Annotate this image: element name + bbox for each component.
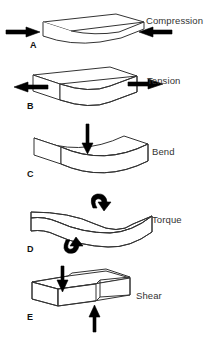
compression-diagram <box>0 0 208 60</box>
shear-bar-shape <box>32 269 130 306</box>
shear-diagram <box>0 262 208 338</box>
panel-compression: Compression A <box>0 0 208 60</box>
compression-arrow-left <box>6 27 40 37</box>
panel-torque: Torque D <box>0 188 208 260</box>
tension-bar-shape <box>33 67 137 106</box>
panel-letter-e: E <box>27 312 33 322</box>
label-compression: Compression <box>146 15 203 26</box>
compression-bar-shape <box>43 14 144 43</box>
torque-arrow-top <box>91 194 111 211</box>
panel-letter-c: C <box>27 169 34 179</box>
panel-shear: Shear E <box>0 262 208 338</box>
label-tension: Tension <box>147 75 180 86</box>
bend-bar-shape <box>34 136 148 173</box>
panel-letter-d: D <box>27 244 34 254</box>
shear-arrow-up <box>89 305 100 332</box>
label-bend: Bend <box>152 146 175 157</box>
panel-tension: Tension B <box>0 62 208 120</box>
stress-types-figure: Compression A Ten <box>0 0 208 338</box>
panel-letter-b: B <box>27 101 34 111</box>
panel-letter-a: A <box>30 40 37 50</box>
label-shear: Shear <box>136 290 162 301</box>
label-torque: Torque <box>152 214 182 225</box>
panel-bend: Bend C <box>0 122 208 184</box>
torque-bar-shape <box>31 212 152 247</box>
tension-diagram <box>0 62 208 120</box>
